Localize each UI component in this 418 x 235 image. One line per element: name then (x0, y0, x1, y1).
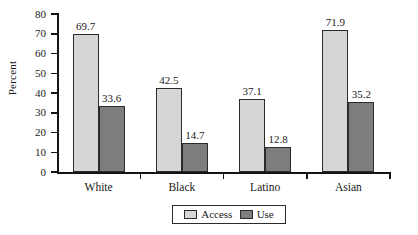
y-axis-tick-label: 80 (12, 9, 46, 20)
y-axis-tick-label: 70 (12, 28, 46, 39)
y-axis-tick-label: 60 (12, 48, 46, 59)
x-axis-tick (306, 173, 308, 179)
x-axis-label-asian: Asian (306, 181, 390, 193)
plot-area: 69.733.642.514.737.112.871.935.2 (57, 14, 390, 172)
legend-label-access: Access (201, 209, 232, 220)
y-axis-tick-label: 30 (12, 107, 46, 118)
x-axis-tick (140, 173, 142, 179)
bar-value-label: 69.7 (63, 21, 109, 32)
y-axis-tick-label: 20 (12, 127, 46, 138)
legend-entry-access: Access (184, 209, 232, 220)
y-axis-tick-label: 0 (12, 167, 46, 178)
legend-swatch-use-icon (240, 210, 253, 219)
bar-black-use (182, 143, 208, 172)
bar-value-label: 71.9 (312, 17, 358, 28)
x-axis-label-white: White (57, 181, 141, 193)
y-axis-tick-label: 50 (12, 68, 46, 79)
x-axis-label-black: Black (140, 181, 224, 193)
bar-asian-access (322, 30, 348, 172)
bar-value-label: 37.1 (229, 86, 275, 97)
bar-value-label: 35.2 (338, 89, 384, 100)
bar-value-label: 33.6 (89, 93, 135, 104)
y-axis-tick-label: 10 (12, 147, 46, 158)
bar-latino-use (265, 147, 291, 172)
legend-swatch-access-icon (184, 210, 197, 219)
bar-asian-use (348, 102, 374, 172)
bar-value-label: 42.5 (146, 75, 192, 86)
bar-value-label: 12.8 (255, 134, 301, 145)
legend-entry-use: Use (240, 209, 274, 220)
bar-chart: Percent 01020304050607080 69.733.642.514… (0, 0, 418, 235)
legend-label-use: Use (257, 209, 274, 220)
bar-value-label: 14.7 (172, 130, 218, 141)
y-axis-tick-label: 40 (12, 88, 46, 99)
bar-white-use (99, 106, 125, 172)
x-axis-tick (223, 173, 225, 179)
x-axis-label-latino: Latino (223, 181, 307, 193)
chart-legend: Access Use (172, 205, 286, 224)
x-axis-tick (389, 173, 391, 179)
